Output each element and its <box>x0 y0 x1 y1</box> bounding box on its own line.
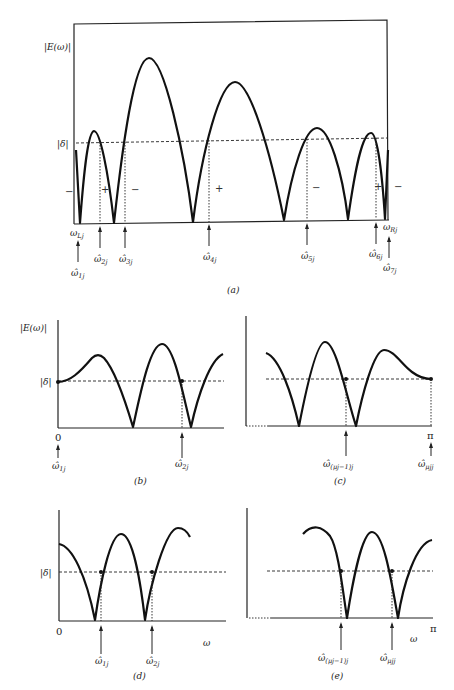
omega-hat-5j-label: ω̂5j <box>301 251 315 263</box>
panel-d-omega-hat-1j: ω̂1j <box>95 656 109 668</box>
panel-b: |E(ω)| |δ| 0 ω̂1j ω̂2j (b) <box>20 320 224 486</box>
panel-d-zero-label: 0 <box>56 626 62 637</box>
sign-2: + <box>101 184 109 195</box>
omega-hat-7j-label: ω̂7j <box>383 263 397 275</box>
panel-c-omega-hat-mu: ω̂μjj <box>418 459 434 471</box>
panel-a-frame <box>74 20 388 224</box>
caption-b: (b) <box>134 476 147 486</box>
panel-d: |δ| 0 ω ω̂1j ω̂2j (d) <box>40 510 226 681</box>
sign-3: − <box>131 184 139 195</box>
caption-a: (a) <box>227 285 240 295</box>
panel-b-ylabel: |E(ω)| <box>20 323 47 334</box>
caption-c: (c) <box>334 476 347 486</box>
panel-b-zero-label: 0 <box>55 432 61 443</box>
panel-e-omega-hat-mu-minus-1: ω̂(μj−1)j <box>318 653 348 665</box>
panel-e: π ω ω̂(μj−1)j ω̂μjj (e) <box>247 508 437 681</box>
panel-e-omega-hat-mu: ω̂μjj <box>380 653 396 665</box>
panel-e-pi-label: π <box>430 623 437 634</box>
omega-L-label: ωLj <box>70 228 84 240</box>
caption-e: (e) <box>331 671 344 681</box>
omega-hat-2j-label: ω̂2j <box>94 254 108 266</box>
panel-a: |E(ω)| |δ| − + − + − + − ωLj ωRj <box>44 20 402 295</box>
sign-4: + <box>215 183 223 194</box>
panel-b-delta-label: |δ| <box>40 377 51 388</box>
error-curve-e <box>303 527 432 618</box>
error-curve-c <box>266 342 431 426</box>
panel-c-pi-label: π <box>427 430 434 441</box>
sign-7: − <box>394 181 402 192</box>
panel-c-omega-hat-mu-minus-1: ω̂(μj−1)j <box>323 459 353 471</box>
caption-d: (d) <box>133 671 146 681</box>
panel-a-delta-label: |δ| <box>57 139 68 150</box>
panel-d-omega-hat-2j: ω̂2j <box>146 656 160 668</box>
omega-hat-4j-label: ω̂4j <box>203 252 217 264</box>
panel-e-xlabel: ω <box>410 634 418 644</box>
omega-R-label: ωRj <box>383 222 397 234</box>
figure-canvas: |E(ω)| |δ| − + − + − + − ωLj ωRj <box>0 0 454 690</box>
panel-a-ylabel: |E(ω)| <box>44 42 71 53</box>
omega-hat-6j-label: ω̂6j <box>369 249 383 261</box>
error-curve-d <box>59 528 190 620</box>
omega-hat-3j-label: ω̂3j <box>119 254 133 266</box>
error-curve-b <box>58 344 223 427</box>
sign-1: − <box>65 186 73 197</box>
panel-c: π ω̂(μj−1)j ω̂μjj (c) <box>246 316 434 486</box>
panel-d-xlabel: ω <box>203 638 211 648</box>
omega-hat-1j-label: ω̂1j <box>71 268 85 280</box>
sign-6: + <box>374 181 382 192</box>
delta-threshold-line <box>76 138 388 143</box>
panel-a-x-axis <box>74 220 389 224</box>
panel-d-delta-label: |δ| <box>40 568 51 579</box>
panel-b-omega-hat-2j: ω̂2j <box>175 459 189 471</box>
panel-b-omega-hat-1j: ω̂1j <box>52 461 66 473</box>
sign-5: − <box>312 182 320 193</box>
